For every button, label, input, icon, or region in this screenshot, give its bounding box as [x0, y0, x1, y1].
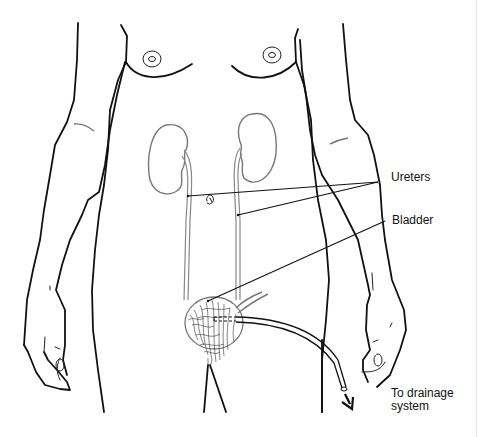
ureters [182, 148, 242, 300]
leader-lines [187, 182, 385, 302]
catheter-tube [236, 317, 347, 391]
legs [204, 340, 322, 412]
kidneys [149, 113, 277, 193]
right-arm [300, 24, 406, 387]
label-ureters: Ureters [391, 171, 430, 184]
bladder [185, 292, 268, 368]
kidney-left [149, 125, 188, 194]
left-arm [24, 23, 125, 390]
label-drainage-line2: system [391, 400, 429, 413]
kidney-right [239, 113, 277, 182]
diagram-canvas: Ureters Bladder To drainage system [0, 0, 482, 437]
leader-bladder [208, 221, 385, 301]
navel [207, 195, 214, 204]
drainage-arrow-icon [342, 394, 353, 409]
nipples [143, 47, 281, 67]
pubic-hair [188, 300, 236, 368]
label-bladder: Bladder [392, 214, 433, 227]
